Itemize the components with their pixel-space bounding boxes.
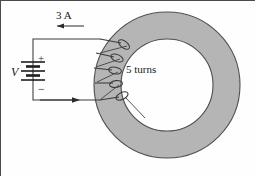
figure-canvas: 3 A V 5 turns + − — [0, 0, 255, 176]
turns-label: 5 turns — [126, 64, 156, 75]
negative-terminal-label: − — [38, 83, 45, 95]
current-arrow-top — [57, 23, 84, 28]
return-arrow-bottom — [40, 97, 80, 103]
positive-terminal-label: + — [38, 53, 44, 64]
return-arrow-head — [72, 97, 80, 103]
current-label: 3 A — [56, 10, 72, 21]
toroid-inner-edge — [121, 39, 213, 131]
voltage-source-label: V — [11, 66, 18, 78]
toroid-core — [94, 12, 240, 158]
toroid-fill — [94, 12, 240, 158]
current-arrow-head — [57, 23, 64, 28]
